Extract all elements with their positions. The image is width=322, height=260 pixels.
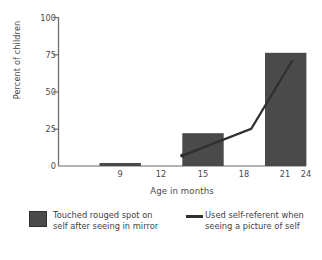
chart-figure: Percent of children 100 75 50 25 0 9 12 bbox=[0, 0, 322, 260]
chart-legend: Touched rouged spot on self after seeing… bbox=[0, 206, 322, 260]
legend-label-line: Used self-referent when seeing a picture… bbox=[205, 210, 322, 231]
x-tick-label-9: 9 bbox=[107, 169, 133, 179]
line-point-15 bbox=[180, 154, 184, 158]
legend-swatch-icon bbox=[29, 211, 47, 227]
x-tick-label-15: 15 bbox=[190, 169, 216, 179]
x-tick-label-18: 18 bbox=[231, 169, 257, 179]
x-axis-label: Age in months bbox=[58, 186, 306, 196]
plot-area: Percent of children 100 75 50 25 0 9 12 bbox=[0, 0, 322, 205]
x-tick-label-24: 24 bbox=[293, 169, 319, 179]
bar-9-12 bbox=[100, 163, 141, 166]
bar-15-18 bbox=[182, 133, 223, 166]
legend-label-bar: Touched rouged spot on self after seeing… bbox=[53, 210, 165, 231]
legend-line-icon bbox=[186, 215, 203, 218]
x-tick-label-12: 12 bbox=[148, 169, 174, 179]
legend-entry-bar: Touched rouged spot on self after seeing… bbox=[29, 210, 165, 231]
legend-entry-line: Used self-referent when seeing a picture… bbox=[186, 210, 322, 231]
